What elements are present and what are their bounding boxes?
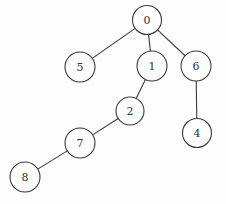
node-label-8: 8 <box>22 171 29 184</box>
edge-2-7 <box>93 119 119 135</box>
node-label-6: 6 <box>193 60 200 73</box>
edge-0-6 <box>158 30 185 56</box>
node-2: 2 <box>116 97 144 125</box>
edge-0-5 <box>92 28 135 58</box>
edge-1-2 <box>136 79 145 98</box>
node-0: 0 <box>133 6 162 35</box>
edge-7-8 <box>38 151 67 169</box>
node-5: 5 <box>65 52 95 82</box>
node-1: 1 <box>137 51 167 81</box>
node-label-0: 0 <box>144 14 151 27</box>
tree-diagram: 05162478 <box>0 0 226 204</box>
edge-0-1 <box>149 34 151 51</box>
node-label-1: 1 <box>149 60 156 73</box>
node-label-7: 7 <box>77 137 84 150</box>
node-4: 4 <box>183 119 212 148</box>
node-label-4: 4 <box>194 127 201 140</box>
node-8: 8 <box>10 162 40 192</box>
node-6: 6 <box>181 51 211 81</box>
node-label-2: 2 <box>127 105 134 118</box>
edge-6-4 <box>196 81 197 119</box>
diagram-canvas: 05162478 <box>0 0 226 204</box>
node-label-5: 5 <box>77 61 84 74</box>
node-7: 7 <box>65 128 95 158</box>
